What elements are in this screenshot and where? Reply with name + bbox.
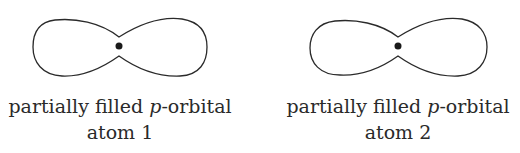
atom-label-1: atom 1 — [0, 119, 240, 145]
caption-atom-2: partially filled p-orbital atom 2 — [278, 93, 518, 145]
nucleus-atom-1 — [116, 43, 123, 50]
orbital-label-2: partially filled p-orbital — [278, 93, 518, 119]
nucleus-atom-2 — [395, 43, 402, 50]
caption-atom-1: partially filled p-orbital atom 1 — [0, 93, 240, 145]
orbital-label-1: partially filled p-orbital — [0, 93, 240, 119]
atom-label-2: atom 2 — [278, 119, 518, 145]
